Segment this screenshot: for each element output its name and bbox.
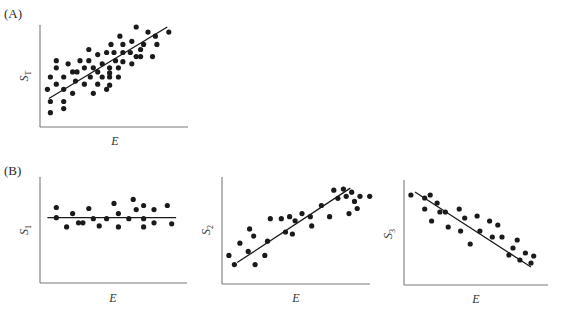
data-point [126, 216, 131, 221]
data-point [48, 74, 53, 79]
data-point [86, 206, 91, 211]
data-point [367, 194, 372, 199]
data-point [86, 47, 91, 52]
data-point [138, 54, 143, 59]
data-point [117, 34, 122, 39]
data-point [141, 224, 146, 229]
x-axis-label: E [291, 291, 300, 305]
data-point [91, 216, 96, 221]
scatter-panel-a: EST [17, 24, 188, 148]
data-point [66, 61, 71, 66]
data-point [104, 87, 109, 92]
data-point [61, 106, 66, 111]
data-point [116, 65, 121, 70]
data-point [104, 216, 109, 221]
data-point [70, 211, 75, 216]
data-point [82, 82, 87, 87]
data-point [344, 194, 349, 199]
data-point [268, 216, 273, 221]
data-point [253, 262, 258, 267]
data-point [54, 205, 59, 210]
data-point [77, 58, 82, 63]
data-point [487, 218, 492, 223]
data-point [120, 42, 125, 47]
data-point [166, 29, 171, 34]
data-point [129, 39, 134, 44]
data-point [141, 203, 146, 208]
data-point [331, 188, 336, 193]
scatter-panel-b2: ES2 [199, 177, 372, 305]
data-point [352, 199, 357, 204]
data-point [226, 253, 231, 258]
data-point [408, 192, 413, 197]
data-point [104, 50, 109, 55]
data-point [458, 228, 463, 233]
data-point [116, 224, 121, 229]
panel-b-label: (B) [4, 163, 21, 178]
data-point [70, 91, 75, 96]
data-point [515, 237, 520, 242]
data-point [54, 65, 59, 70]
data-point [86, 58, 91, 63]
data-point [232, 262, 237, 267]
scatter-panel-b3: ES3 [381, 180, 548, 306]
x-axis-label: E [471, 292, 480, 306]
data-point [134, 24, 139, 29]
data-point [111, 201, 116, 206]
y-axis-label: S3 [381, 229, 397, 239]
data-point [82, 65, 87, 70]
y-axis-label-subscript: 2 [206, 225, 215, 229]
data-point [151, 207, 156, 212]
data-point [107, 65, 112, 70]
data-point [346, 211, 351, 216]
data-point [80, 220, 85, 225]
data-point [237, 241, 242, 246]
data-point [299, 211, 304, 216]
scatter-panel-b1: ES1 [17, 177, 187, 305]
data-point [499, 234, 504, 239]
data-point [169, 221, 174, 226]
data-point [111, 50, 116, 55]
data-point [462, 215, 467, 220]
plots: ESTES1ES2ES3 [17, 24, 548, 306]
data-point [108, 42, 113, 47]
regression-line [415, 192, 531, 267]
data-point [61, 99, 66, 104]
data-point [490, 234, 495, 239]
data-point [154, 42, 159, 47]
data-point [97, 223, 102, 228]
data-point [246, 249, 251, 254]
data-point [422, 206, 427, 211]
regression-line [237, 188, 350, 262]
x-axis-label: E [110, 134, 119, 148]
data-point [327, 214, 332, 219]
data-point [45, 87, 50, 92]
data-point [437, 209, 442, 214]
data-point [309, 223, 314, 228]
data-point [91, 65, 96, 70]
data-point [54, 82, 59, 87]
figure: (A) (B) ESTES1ES2ES3 [0, 0, 566, 309]
data-point [528, 260, 533, 265]
y-axis-label: ST [17, 70, 33, 81]
data-point [54, 58, 59, 63]
data-point [349, 190, 354, 195]
data-point [95, 52, 100, 57]
data-point [134, 207, 139, 212]
data-point [290, 231, 295, 236]
data-point [523, 250, 528, 255]
data-point [247, 226, 252, 231]
data-point [64, 224, 69, 229]
data-point [91, 91, 96, 96]
data-point [141, 216, 146, 221]
panel-a-label: (A) [4, 6, 22, 21]
data-point [48, 110, 53, 115]
data-point [48, 99, 53, 104]
data-point [428, 192, 433, 197]
data-point [279, 216, 284, 221]
data-point [531, 253, 536, 258]
data-point [251, 234, 256, 239]
y-axis-label: S2 [199, 225, 215, 235]
y-axis-label-subscript: T [24, 70, 33, 75]
data-point [357, 194, 362, 199]
